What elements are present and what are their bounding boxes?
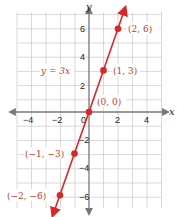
x-axis-label: x xyxy=(169,106,175,117)
point-1-3 xyxy=(100,67,107,74)
point-label: (2, 6) xyxy=(128,24,152,34)
point-2-6 xyxy=(115,26,122,33)
point-label: (1, 3) xyxy=(113,66,137,76)
x-tick-label: −2 xyxy=(52,115,62,125)
y-tick-label: 6 xyxy=(80,24,85,34)
point-0-0 xyxy=(86,109,93,116)
x-tick-label: −4 xyxy=(23,115,33,125)
x-tick-label: 2 xyxy=(115,115,120,125)
point-label: (0, 0) xyxy=(97,97,121,107)
y-tick-label: 4 xyxy=(80,52,85,62)
point-neg2-neg6 xyxy=(57,192,64,199)
y-tick-label: −4 xyxy=(79,163,89,173)
y-tick-label: 2 xyxy=(80,81,85,91)
equation-label: y = 3x xyxy=(40,66,70,76)
point-label: (−2, −6) xyxy=(7,191,46,201)
point-neg1-neg3 xyxy=(71,150,78,157)
point-label: (−1, −3) xyxy=(25,149,64,159)
y-axis-label: y xyxy=(85,1,92,12)
coordinate-plane-chart: x y −4 −2 0 2 4 6 4 2 −2 −4 −6 (2, 6) (1… xyxy=(0,0,177,217)
y-tick-label: −6 xyxy=(79,192,89,202)
x-tick-label: 4 xyxy=(144,115,149,125)
